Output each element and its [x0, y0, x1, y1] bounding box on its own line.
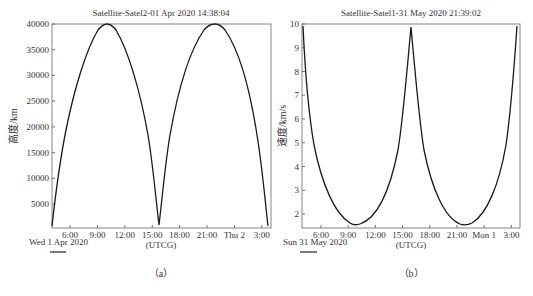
x-axis-a: 6:00 9:00 12:00 15:00 18:00 21:00 Thu 2 … — [29, 225, 270, 252]
y-tick-label: 10 — [290, 19, 300, 29]
x-tick-label: 15:00 — [142, 230, 163, 240]
x-axis-title-b: (UTCG) — [396, 240, 427, 250]
x-tick-label: Mon 1 — [472, 230, 496, 240]
y-tick-label: 3 — [295, 185, 300, 195]
x-tick-label: 3:00 — [503, 230, 520, 240]
altitude-curve — [52, 24, 268, 226]
y-tick-label: 6 — [295, 114, 300, 124]
x-tick-label: 21:00 — [197, 230, 218, 240]
x-tick-label: Thu 2 — [224, 230, 245, 240]
y-axis-a: 5000 10000 15000 20000 25000 30000 35000… — [27, 19, 56, 209]
y-tick-label: 25000 — [27, 96, 50, 106]
y-tick-label: 35000 — [27, 45, 50, 55]
y-tick-label: 2 — [295, 209, 300, 219]
x-tick-label: 15:00 — [392, 230, 413, 240]
x-tick-label: 18:00 — [420, 230, 441, 240]
y-tick-label: 40000 — [27, 19, 50, 29]
y-tick-label: 5000 — [31, 199, 50, 209]
y-tick-label: 10000 — [27, 173, 50, 183]
y-axis-title-b: 速度/km/s — [276, 105, 288, 147]
y-tick-label: 15000 — [27, 148, 50, 158]
caption-a: （a） — [149, 268, 173, 279]
caption-b: （b） — [399, 268, 424, 279]
x-axis-b: 6:00 9:00 12:00 15:00 18:00 21:00 Mon 1 … — [283, 225, 520, 252]
chart-panel-a: Satellite-Satel2-01 Apr 2020 14:38:04 50… — [7, 8, 271, 279]
x-tick-label: 9:00 — [89, 230, 106, 240]
x-tick-label: 12:00 — [115, 230, 136, 240]
date-label-b: Sun 31 May 2020 — [283, 237, 348, 247]
y-tick-label: 20000 — [27, 122, 50, 132]
x-tick-label: 12:00 — [365, 230, 386, 240]
chart-title-a: Satellite-Satel2-01 Apr 2020 14:38:04 — [92, 8, 230, 18]
x-tick-label: 3:00 — [254, 230, 271, 240]
figure: Satellite-Satel2-01 Apr 2020 14:38:04 50… — [0, 0, 533, 296]
x-tick-label: 21:00 — [447, 230, 468, 240]
y-tick-label: 9 — [295, 43, 300, 53]
chart-panel-b: Satellite-Satel1-31 May 2020 21:39:02 2 … — [276, 8, 520, 279]
date-label-a: Wed 1 Apr 2020 — [29, 237, 89, 247]
y-tick-label: 5 — [295, 138, 300, 148]
y-tick-label: 30000 — [27, 70, 50, 80]
chart-title-b: Satellite-Satel1-31 May 2020 21:39:02 — [341, 8, 481, 18]
y-tick-label: 7 — [295, 90, 300, 100]
y-tick-label: 8 — [295, 67, 300, 77]
y-axis-b: 2 3 4 5 6 7 8 9 10 — [290, 19, 305, 219]
plot-frame-b — [302, 24, 520, 228]
x-tick-label: 18:00 — [169, 230, 190, 240]
y-axis-title-a: 高度/km — [7, 108, 19, 144]
x-axis-title-a: (UTCG) — [146, 240, 177, 250]
velocity-curve — [303, 26, 517, 225]
y-tick-label: 4 — [295, 162, 300, 172]
